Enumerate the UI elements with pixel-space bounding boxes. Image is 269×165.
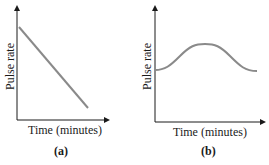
panel-a-caption: (a) [54,144,68,159]
panel-b-ylabel: Pulse rate [140,43,155,90]
panel-a-curve [19,27,88,108]
panel-a-xlabel: Time (minutes) [28,123,102,138]
panel-b-caption: (b) [201,144,216,159]
panel-a-ylabel: Pulse rate [3,43,18,90]
charts-canvas [0,0,269,165]
panel-b-curve [155,44,257,71]
panel-b-xlabel: Time (minutes) [173,125,247,140]
panel-a-axes [17,8,107,120]
